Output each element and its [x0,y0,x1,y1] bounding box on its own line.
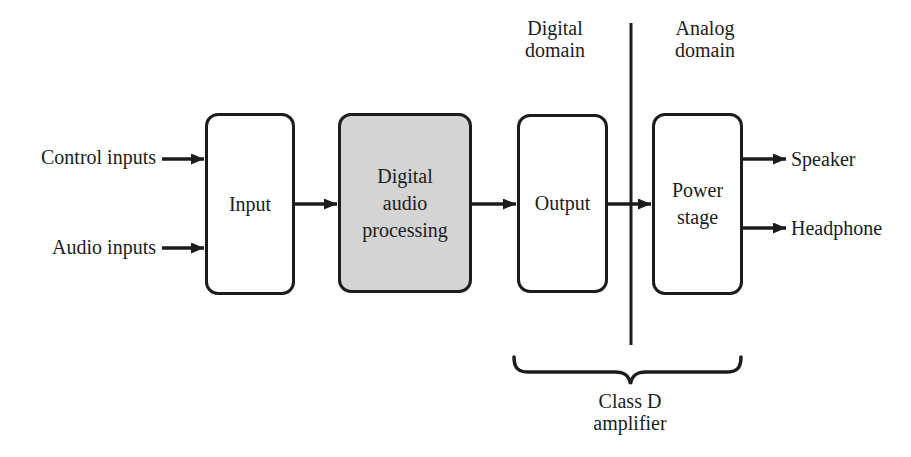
block-diagram: Digital domain Analog domain Control inp… [0,0,911,457]
output-block: Output [517,114,608,293]
class-d-brace [514,357,741,384]
speaker-label: Speaker [791,148,855,170]
audio-inputs-label: Audio inputs [0,236,156,258]
analog-domain-label: Analog domain [645,17,765,61]
control-inputs-label: Control inputs [0,146,156,168]
digital-domain-label: Digital domain [495,17,615,61]
headphone-label: Headphone [791,217,882,239]
digital-audio-processing-block: Digital audio processing [338,113,472,293]
input-block: Input [205,113,295,295]
class-d-amplifier-label: Class D amplifier [555,390,705,434]
power-stage-block: Power stage [652,113,743,295]
